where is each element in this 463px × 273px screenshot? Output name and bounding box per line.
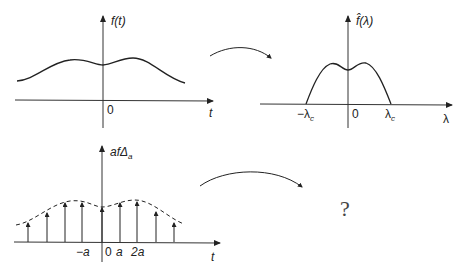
signal-curve xyxy=(17,58,185,83)
signal-x-axis xyxy=(15,100,213,101)
diagram-canvas xyxy=(0,0,463,273)
tick-label-2a: 2a xyxy=(131,246,144,258)
spectrum-origin-label: 0 xyxy=(352,108,359,120)
signal-origin-label: 0 xyxy=(107,104,114,116)
transform-arrow-bottom xyxy=(200,172,302,187)
sampled-envelope xyxy=(16,200,184,225)
tick-label-zero: 0 xyxy=(105,246,112,258)
spectrum-right-cutoff-label: λc xyxy=(385,108,395,125)
spectrum-x-axis xyxy=(260,104,452,105)
signal-y-label: f(t) xyxy=(111,15,126,27)
sampled-y-label: afΔa xyxy=(110,146,133,163)
tick-label-a: a xyxy=(116,246,123,258)
signal-x-label: t xyxy=(209,107,212,119)
spectrum-x-label: λ xyxy=(443,113,449,125)
spectrum-y-label: f̂(λ) xyxy=(356,15,373,27)
transform-arrow-top xyxy=(210,48,271,58)
signal-plot xyxy=(15,16,213,128)
sampled-x-axis xyxy=(14,242,220,243)
tick-label-minus-a: −a xyxy=(76,246,90,258)
spectrum-left-cutoff-label: −λc xyxy=(297,108,314,125)
sampled-x-label: t xyxy=(211,251,214,263)
unknown-result-symbol: ? xyxy=(340,196,350,222)
